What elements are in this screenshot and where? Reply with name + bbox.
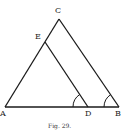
label-A: A <box>0 110 6 118</box>
segment-AC <box>5 19 59 107</box>
figure-caption: Fig. 29. <box>48 123 71 129</box>
angle-mark-B <box>104 95 111 107</box>
geometry-figure <box>0 0 130 140</box>
label-E: E <box>35 33 41 41</box>
segment-CB <box>59 19 119 107</box>
label-D: D <box>85 110 91 118</box>
angle-mark-D <box>73 95 80 108</box>
label-C: C <box>55 7 61 15</box>
label-B: B <box>115 110 121 118</box>
